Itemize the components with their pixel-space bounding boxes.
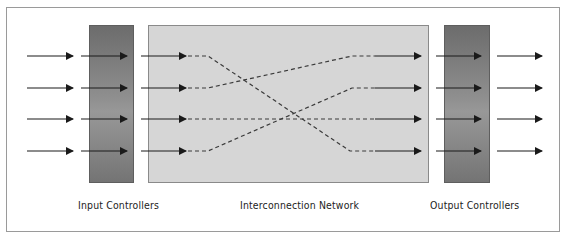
output-controllers-label: Output Controllers — [430, 199, 519, 212]
solid-arrows — [27, 56, 542, 151]
dashed-routes — [188, 56, 375, 151]
interconnection-network-label: Interconnection Network — [240, 199, 359, 212]
input-controllers-label: Input Controllers — [78, 199, 159, 212]
